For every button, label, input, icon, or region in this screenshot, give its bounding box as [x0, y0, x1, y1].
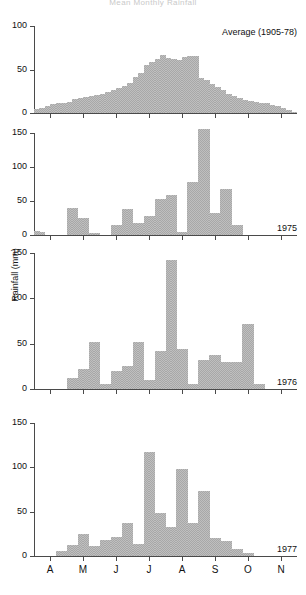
y-tick-label: 100: [0, 293, 27, 302]
y-tick-label: 50: [0, 339, 27, 348]
x-tick: [281, 236, 282, 240]
x-tick-label: M: [69, 565, 97, 575]
y-tick-label: 0: [0, 384, 27, 393]
x-tick: [182, 557, 183, 561]
x-tick: [116, 557, 117, 561]
x-axis-line: [34, 235, 297, 236]
y-tick-label: 100: [0, 162, 27, 171]
x-tick: [50, 236, 51, 240]
x-tick: [281, 390, 282, 394]
panel-label-y1977: 1977: [277, 544, 297, 554]
y-tick-label: 0: [0, 230, 27, 239]
x-tick: [149, 114, 150, 118]
y-tick-label: 150: [0, 418, 27, 427]
x-tick-label: O: [234, 565, 262, 575]
panel-y1977: 0501001501977: [0, 423, 306, 556]
x-tick-label: A: [36, 565, 64, 575]
bar-group: [34, 253, 297, 389]
x-axis-line: [34, 389, 297, 390]
bar: [39, 232, 45, 235]
x-tick: [50, 114, 51, 118]
x-tick: [116, 236, 117, 240]
x-tick: [248, 236, 249, 240]
x-tick: [50, 390, 51, 394]
panel-average: 050100Average (1905-78): [0, 26, 306, 113]
x-tick: [281, 114, 282, 118]
bar-group: [34, 133, 297, 235]
x-tick-label: A: [168, 565, 196, 575]
y-tick-label: 0: [0, 108, 27, 117]
x-axis-line: [34, 556, 297, 557]
y-tick-label: 150: [0, 128, 27, 137]
x-tick: [83, 236, 84, 240]
x-tick: [50, 557, 51, 561]
x-tick: [149, 557, 150, 561]
figure-title: Mean Monthly Rainfall: [0, 0, 306, 7]
rainfall-figure: Mean Monthly Rainfall Rainfall (mm) 0501…: [0, 0, 306, 595]
x-tick: [248, 390, 249, 394]
x-tick: [83, 557, 84, 561]
bar: [94, 342, 100, 389]
x-tick: [248, 557, 249, 561]
y-tick: [30, 556, 34, 557]
bar: [248, 324, 254, 389]
x-tick: [149, 236, 150, 240]
bar: [259, 384, 265, 389]
panel-y1975: 0501001501975: [0, 133, 306, 235]
y-tick-label: 50: [0, 65, 27, 74]
y-tick-label: 150: [0, 248, 27, 257]
y-tick-label: 50: [0, 196, 27, 205]
bar-group: [34, 26, 297, 113]
panel-label-y1976: 1976: [277, 377, 297, 387]
bar-group: [34, 423, 297, 556]
y-tick: [30, 113, 34, 114]
y-tick-label: 0: [0, 551, 27, 560]
y-tick-label: 100: [0, 21, 27, 30]
bar: [237, 225, 243, 235]
bar: [292, 112, 298, 113]
x-tick-label: N: [267, 565, 295, 575]
x-tick-label: J: [135, 565, 163, 575]
y-tick-label: 50: [0, 507, 27, 516]
panel-label-average: Average (1905-78): [222, 27, 297, 37]
x-tick: [215, 236, 216, 240]
x-tick: [215, 390, 216, 394]
bar: [248, 553, 254, 556]
x-axis-line: [34, 113, 297, 114]
x-tick: [182, 114, 183, 118]
x-tick-label: J: [102, 565, 130, 575]
x-tick: [116, 390, 117, 394]
x-tick: [248, 114, 249, 118]
x-tick: [149, 390, 150, 394]
x-tick: [215, 557, 216, 561]
x-tick: [182, 236, 183, 240]
bar: [171, 195, 177, 235]
bar: [94, 233, 100, 235]
y-tick: [30, 389, 34, 390]
panel-y1976: 0501001501976: [0, 253, 306, 389]
x-tick: [116, 114, 117, 118]
x-tick: [281, 557, 282, 561]
x-tick: [83, 114, 84, 118]
y-tick: [30, 235, 34, 236]
x-tick: [83, 390, 84, 394]
panel-label-y1975: 1975: [277, 223, 297, 233]
x-tick-label: S: [201, 565, 229, 575]
x-tick: [182, 390, 183, 394]
y-tick-label: 100: [0, 462, 27, 471]
x-tick: [215, 114, 216, 118]
